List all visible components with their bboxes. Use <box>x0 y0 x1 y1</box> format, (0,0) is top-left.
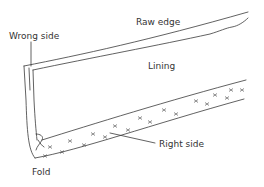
cross-stitch-mark <box>103 136 107 139</box>
cross-stitch-mark <box>126 129 130 132</box>
right-side-bottom-line <box>35 99 244 158</box>
wrong-side-label: Wrong side <box>9 31 60 41</box>
lining-diagram: Raw edge Wrong side Lining Right side Fo… <box>0 0 264 187</box>
cross-stitch-mark <box>113 125 117 128</box>
cross-stitch-mark <box>213 94 217 97</box>
cross-stitch-mark <box>138 117 142 120</box>
cross-stitch-mark <box>194 100 198 103</box>
cross-stitch-marks <box>43 89 244 158</box>
cross-stitch-mark <box>174 113 178 116</box>
fold-label: Fold <box>32 167 51 177</box>
cross-stitch-mark <box>229 89 233 92</box>
cross-stitch-mark <box>148 121 152 124</box>
cross-stitch-mark <box>91 133 95 136</box>
cross-stitch-mark <box>240 89 244 92</box>
cross-stitch-mark <box>68 140 72 143</box>
cross-stitch-mark <box>48 146 52 149</box>
cross-stitch-mark <box>205 103 209 106</box>
cross-stitch-mark <box>162 109 166 112</box>
cross-stitch-mark <box>225 97 229 100</box>
right-side-leader-line <box>110 133 155 143</box>
wrong-side-divider-line <box>29 68 30 90</box>
wrong-side-inner-line <box>33 70 37 140</box>
raw-edge-label: Raw edge <box>136 17 181 27</box>
right-side-top-line <box>42 80 246 140</box>
right-side-label: Right side <box>159 139 204 149</box>
lining-label: Lining <box>148 61 175 71</box>
